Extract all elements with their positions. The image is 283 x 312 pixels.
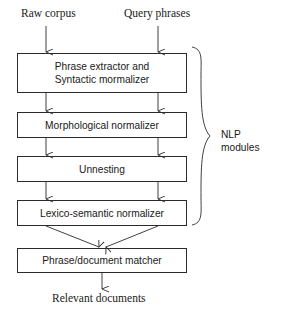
stage-box-phrase-extractor[interactable]: Phrase extractor and Syntactic mormalize…: [17, 53, 187, 93]
nlp-pipeline-diagram: Raw corpus Query phrases Phrase extracto…: [0, 0, 283, 312]
stage-label-phrase-extractor-line2: Syntactic mormalizer: [55, 73, 150, 86]
stage-box-unnesting[interactable]: Unnesting: [17, 156, 187, 182]
stage-box-lexico-semantic-normalizer[interactable]: Lexico-semantic normalizer: [17, 200, 187, 226]
group-label-nlp-modules-line2: modules: [221, 141, 260, 154]
group-label-nlp-modules-line1: NLP: [221, 128, 241, 141]
stage-label-phrase-extractor-line1: Phrase extractor and: [55, 60, 150, 73]
stage-label-phrase-document-matcher: Phrase/document matcher: [42, 254, 161, 267]
arrow-stage4-matcher-left: [46, 226, 99, 247]
input-label-raw-corpus: Raw corpus: [21, 8, 76, 20]
stage-label-morphological-normalizer: Morphological normalizer: [45, 119, 159, 132]
nlp-modules-brace: [192, 47, 210, 225]
stage-box-morphological-normalizer[interactable]: Morphological normalizer: [17, 112, 187, 138]
stage-label-lexico-semantic-normalizer: Lexico-semantic normalizer: [40, 207, 164, 220]
stage-box-phrase-document-matcher[interactable]: Phrase/document matcher: [17, 248, 187, 273]
output-label-relevant-documents: Relevant documents: [52, 293, 146, 305]
arrow-stage4-matcher-right: [106, 226, 158, 247]
stage-label-unnesting: Unnesting: [79, 163, 125, 176]
input-label-query-phrases: Query phrases: [124, 8, 190, 20]
